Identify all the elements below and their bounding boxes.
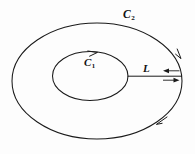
outer-contour-label: C2 — [123, 9, 135, 22]
outer-contour-label-base: C — [123, 8, 131, 20]
outer-contour-curve — [12, 23, 182, 139]
inner-contour-label: C1 — [84, 57, 95, 70]
outer-contour-direction-arrow-right — [176, 49, 181, 59]
outer-contour-label-subscript: 2 — [131, 14, 135, 22]
cut-direction-arrow-right-icon — [174, 78, 180, 83]
inner-contour-label-base: C — [84, 56, 92, 68]
cross-cut-label-base: L — [143, 62, 150, 74]
cross-cut-label: L — [143, 63, 150, 76]
inner-contour-label-subscript: 1 — [92, 62, 95, 69]
cut-direction-arrow-left-icon — [163, 68, 169, 73]
figure-container: C2 C1 L — [0, 0, 195, 154]
contour-diagram-canvas — [0, 0, 195, 154]
